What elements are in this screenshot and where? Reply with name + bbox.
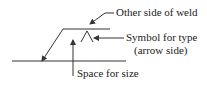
weld-symbol-diagram: Other side of weld Symbol for type (arro… <box>0 0 207 87</box>
label-symbol-type: Symbol for type <box>126 31 198 43</box>
label-arrow-side: (arrow side) <box>134 44 188 57</box>
label-space-size: Space for size <box>77 67 139 79</box>
arrow-leader <box>42 29 63 61</box>
label-other-side: Other side of weld <box>116 6 198 18</box>
other-side-pointer <box>90 13 114 24</box>
v-groove-symbol-icon <box>81 31 93 42</box>
